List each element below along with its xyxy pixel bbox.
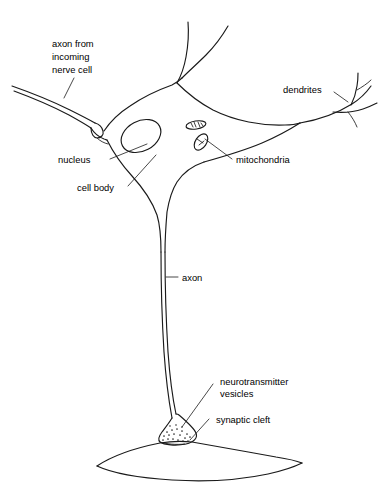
leader-dendrites	[334, 92, 348, 102]
label-incoming-axon-line3: nerve cell	[52, 64, 92, 75]
neuron-diagram-canvas: axon from incoming nerve cell dendrites …	[0, 0, 378, 489]
neuron-diagram: axon from incoming nerve cell dendrites …	[0, 0, 378, 489]
label-axon: axon	[182, 272, 202, 283]
mitochondrion-lower	[191, 131, 210, 152]
leader-incoming-axon	[64, 78, 74, 98]
label-incoming-axon-line1: axon from	[52, 38, 94, 49]
dendrite-top-branch	[177, 22, 228, 83]
leader-mitochondria	[205, 139, 232, 159]
label-cell-body: cell body	[77, 182, 114, 193]
label-incoming-axon-line2: incoming	[52, 51, 90, 62]
cell-body-outline	[91, 78, 300, 252]
label-mitochondria: mitochondria	[236, 154, 290, 165]
mitochondrion-upper	[185, 119, 206, 130]
label-vesicles-line2: vesicles	[220, 388, 254, 399]
dendrite-right-branch	[300, 73, 377, 127]
label-vesicles-line1: neurotransmitter	[220, 376, 288, 387]
postsynaptic-cell	[97, 441, 302, 480]
leader-vesicles	[182, 384, 213, 427]
nucleus-ellipse	[115, 113, 166, 159]
label-nucleus: nucleus	[58, 154, 91, 165]
incoming-axon-terminal	[91, 123, 108, 144]
leader-lines	[64, 78, 348, 440]
incoming-axon	[12, 86, 108, 144]
leader-cell-body	[128, 155, 156, 186]
label-dendrites: dendrites	[283, 84, 322, 95]
label-synaptic-cleft: synaptic cleft	[216, 414, 271, 425]
leader-synaptic-cleft	[190, 419, 209, 440]
